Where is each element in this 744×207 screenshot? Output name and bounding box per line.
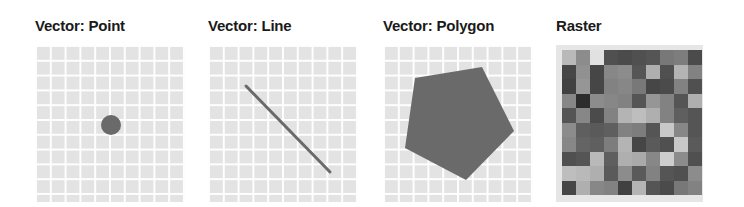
raster-cell [632, 108, 646, 123]
raster-cell [674, 79, 688, 94]
panel-title: Vector: Point [35, 17, 125, 34]
raster-cell [576, 50, 590, 65]
raster-cell [576, 108, 590, 123]
raster-cell [688, 79, 702, 94]
raster-cell [618, 108, 632, 123]
raster-cell [646, 137, 660, 152]
raster-cell [632, 123, 646, 138]
raster-grid [556, 45, 703, 202]
raster-cell [674, 152, 688, 167]
raster-cell [674, 65, 688, 80]
raster-cell [590, 181, 604, 196]
line-feature [246, 86, 330, 172]
raster-cell [646, 65, 660, 80]
raster-cell [646, 94, 660, 109]
raster-cell [590, 137, 604, 152]
raster-cell [576, 152, 590, 167]
raster-cell [646, 79, 660, 94]
raster-cell [590, 50, 604, 65]
raster-cell [688, 50, 702, 65]
raster-cell [660, 152, 674, 167]
raster-cells [562, 50, 702, 195]
raster-cell [576, 79, 590, 94]
raster-cell [618, 65, 632, 80]
raster-cell [604, 181, 618, 196]
raster-cell [604, 65, 618, 80]
raster-cell [618, 79, 632, 94]
raster-cell [660, 65, 674, 80]
raster-cell [604, 166, 618, 181]
raster-cell [674, 123, 688, 138]
raster-cell [604, 152, 618, 167]
raster-cell [590, 152, 604, 167]
raster-cell [688, 137, 702, 152]
polygon-feature [405, 67, 514, 180]
raster-cell [632, 79, 646, 94]
raster-cell [604, 50, 618, 65]
raster-cell [576, 123, 590, 138]
raster-cell [576, 137, 590, 152]
raster-cell [674, 94, 688, 109]
raster-cell [576, 166, 590, 181]
raster-cell [604, 137, 618, 152]
raster-cell [562, 166, 576, 181]
raster-cell [688, 108, 702, 123]
raster-cell [660, 181, 674, 196]
raster-cell [646, 108, 660, 123]
raster-cell [562, 123, 576, 138]
raster-cell [688, 65, 702, 80]
raster-cell [590, 65, 604, 80]
raster-cell [562, 108, 576, 123]
panel-title: Raster [556, 17, 602, 34]
raster-cell [576, 181, 590, 196]
line-canvas [208, 45, 358, 202]
raster-cell [618, 181, 632, 196]
raster-cell [660, 166, 674, 181]
raster-cell [688, 152, 702, 167]
raster-cell [632, 65, 646, 80]
point-feature [101, 115, 121, 135]
point-grid [35, 45, 185, 202]
raster-cell [632, 152, 646, 167]
raster-cell [562, 50, 576, 65]
raster-cell [660, 108, 674, 123]
raster-cell [688, 123, 702, 138]
raster-cell [660, 137, 674, 152]
raster-cell [590, 79, 604, 94]
raster-cell [562, 79, 576, 94]
raster-cell [590, 94, 604, 109]
raster-cell [618, 166, 632, 181]
raster-cell [618, 94, 632, 109]
raster-cell [618, 152, 632, 167]
raster-cell [618, 50, 632, 65]
raster-cell [632, 50, 646, 65]
raster-cell [590, 123, 604, 138]
raster-cell [604, 79, 618, 94]
raster-cell [562, 152, 576, 167]
raster-cell [674, 50, 688, 65]
raster-cell [632, 137, 646, 152]
raster-cell [562, 65, 576, 80]
line-grid [208, 45, 358, 202]
raster-cell [604, 123, 618, 138]
raster-cell [576, 65, 590, 80]
raster-cell [562, 181, 576, 196]
raster-cell [632, 94, 646, 109]
raster-cell [604, 94, 618, 109]
polygon-canvas [383, 45, 533, 202]
raster-cell [618, 137, 632, 152]
raster-cell [632, 166, 646, 181]
raster-cell [646, 50, 660, 65]
panel-title: Vector: Line [208, 17, 291, 34]
raster-cell [674, 166, 688, 181]
raster-cell [688, 94, 702, 109]
raster-cell [646, 152, 660, 167]
raster-cell [674, 137, 688, 152]
raster-cell [590, 108, 604, 123]
raster-cell [660, 79, 674, 94]
raster-cell [604, 108, 618, 123]
raster-cell [562, 94, 576, 109]
raster-cell [576, 94, 590, 109]
raster-cell [660, 50, 674, 65]
raster-cell [660, 123, 674, 138]
